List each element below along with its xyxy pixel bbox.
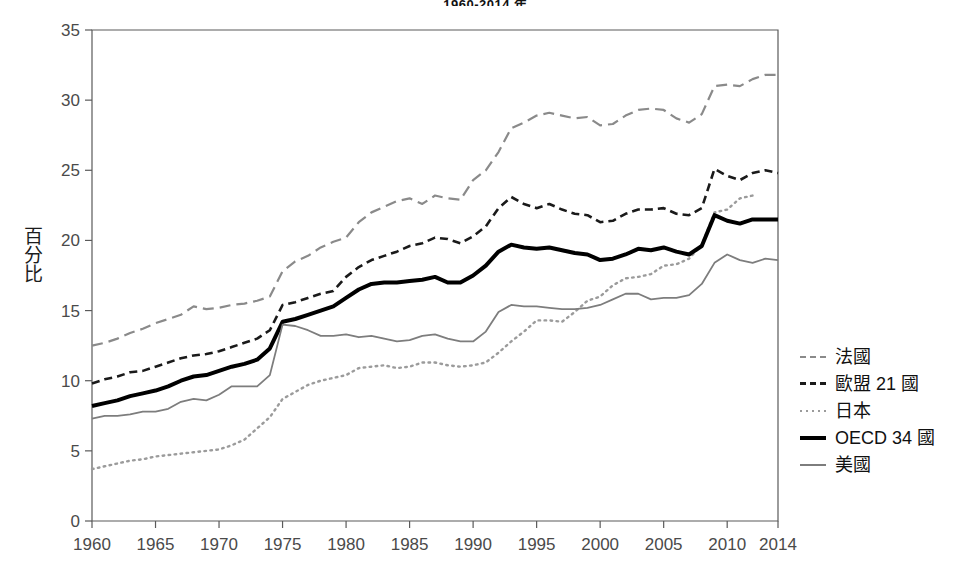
y-tick-label: 25 <box>61 161 80 180</box>
y-axis-ticks: 05101520253035 <box>61 21 92 531</box>
chart-figure: 1960-2014 年 百分比 05101520253035 196019651… <box>0 0 971 584</box>
x-tick-label: 2010 <box>708 535 746 554</box>
y-tick-label: 20 <box>61 231 80 250</box>
legend-item[interactable]: 法國 <box>800 343 968 370</box>
legend-swatch-icon <box>800 431 826 445</box>
legend-item[interactable]: 日本 <box>800 397 968 424</box>
y-tick-label: 30 <box>61 91 80 110</box>
x-tick-label: 1960 <box>73 535 111 554</box>
y-tick-label: 0 <box>71 512 80 531</box>
x-tick-label: 1970 <box>200 535 238 554</box>
x-axis-ticks: 1960196519701975198019851990199520002005… <box>73 521 797 554</box>
data-series-group <box>92 75 778 469</box>
legend-label: 歐盟 21 國 <box>835 375 919 393</box>
x-tick-label: 1965 <box>137 535 175 554</box>
legend-item[interactable]: 美國 <box>800 451 968 478</box>
plot-area: 05101520253035 1960196519701975198019851… <box>0 0 971 584</box>
series-line <box>92 196 753 470</box>
y-tick-label: 10 <box>61 372 80 391</box>
x-tick-label: 2005 <box>645 535 683 554</box>
series-line <box>92 215 778 406</box>
legend-swatch-icon <box>800 377 826 391</box>
legend-swatch-icon <box>800 350 826 364</box>
x-tick-label: 2014 <box>759 535 797 554</box>
legend-item[interactable]: OECD 34 國 <box>800 424 968 451</box>
chart-legend: 法國歐盟 21 國日本OECD 34 國美國 <box>800 343 968 478</box>
legend-label: 日本 <box>835 402 871 420</box>
legend-swatch-icon <box>800 404 826 418</box>
legend-item[interactable]: 歐盟 21 國 <box>800 370 968 397</box>
series-line <box>92 75 778 346</box>
x-tick-label: 1990 <box>454 535 492 554</box>
y-tick-label: 15 <box>61 302 80 321</box>
x-tick-label: 1995 <box>518 535 556 554</box>
legend-label: 法國 <box>835 348 871 366</box>
x-tick-label: 2000 <box>581 535 619 554</box>
x-tick-label: 1980 <box>327 535 365 554</box>
y-tick-label: 5 <box>71 442 80 461</box>
x-tick-label: 1985 <box>391 535 429 554</box>
x-tick-label: 1975 <box>264 535 302 554</box>
y-tick-label: 35 <box>61 21 80 40</box>
legend-label: 美國 <box>835 456 871 474</box>
legend-swatch-icon <box>800 458 826 472</box>
legend-label: OECD 34 國 <box>835 429 935 447</box>
